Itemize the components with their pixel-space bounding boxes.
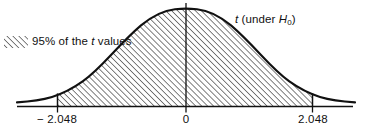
annotation-qualifier-close: ) [292, 13, 296, 25]
axis-tick-label-positive: 2.048 [298, 114, 328, 126]
legend-label: 95% of the t values [32, 36, 132, 48]
annotation-qualifier-open: (under [238, 13, 278, 25]
t-distribution-figure: 95% of the t values t (under H0) − 2.048… [0, 0, 370, 134]
annotation-hypothesis-subscript: 0 [287, 18, 292, 27]
legend-text-suffix: values [95, 35, 132, 47]
annotation-hypothesis-symbol: H [279, 13, 287, 25]
curve-annotation-label: t (under H0) [235, 14, 296, 26]
legend-hatch-swatch [4, 36, 28, 48]
axis-tick-label-zero: 0 [183, 114, 190, 126]
axis-tick-label-negative: − 2.048 [37, 114, 77, 126]
legend-text-prefix: 95% of the [32, 35, 91, 47]
